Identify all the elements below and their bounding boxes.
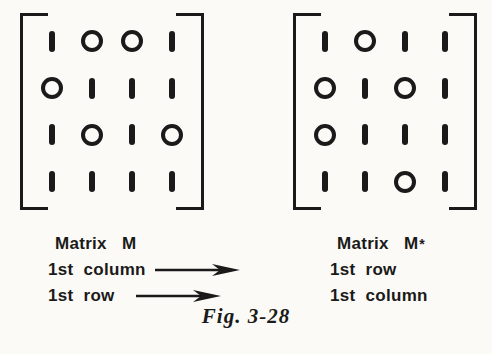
matrix-m-labels: Matrix M 1st column 1st row <box>48 231 240 309</box>
right-arrow-icon <box>135 289 221 303</box>
one-bar-glyph <box>49 31 55 52</box>
matrix-m-star-title-text: Matrix M <box>337 234 418 254</box>
first-row-label: 1st row <box>48 286 115 306</box>
matrix-m-title: Matrix M <box>48 231 240 257</box>
zero-circle-glyph <box>41 77 63 99</box>
matrix-entry-one <box>152 158 192 205</box>
matrix-entry-one <box>345 65 385 112</box>
one-bar-glyph <box>89 78 95 99</box>
matrix-entry-one <box>152 18 192 65</box>
matrix-entry-one <box>305 18 345 65</box>
matrix-m-star-title: Matrix M* <box>330 231 428 257</box>
matrix-entry-one <box>32 18 72 65</box>
matrix-entry-zero <box>385 65 425 112</box>
one-bar-glyph <box>442 171 448 192</box>
matrix-entry-one <box>385 18 425 65</box>
matrix-entry-one <box>32 112 72 159</box>
matrix-entry-one <box>425 112 465 159</box>
first-column-label: 1st column <box>330 286 428 306</box>
one-bar-glyph <box>322 31 328 52</box>
matrix-entry-one <box>72 158 112 205</box>
first-row-label: 1st row <box>330 260 397 280</box>
one-bar-glyph <box>442 78 448 99</box>
one-bar-glyph <box>49 171 55 192</box>
matrix-entry-zero <box>32 65 72 112</box>
matrix-entry-one <box>385 112 425 159</box>
one-bar-glyph <box>402 124 408 145</box>
zero-circle-glyph <box>394 171 416 193</box>
matrix-m-star <box>293 13 477 210</box>
matrix-entry-one <box>425 65 465 112</box>
matrix-m-title-text: Matrix M <box>55 234 136 254</box>
zero-circle-glyph <box>81 30 103 52</box>
matrix-m-label-first-column: 1st column <box>48 257 240 283</box>
one-bar-glyph <box>362 78 368 99</box>
zero-circle-glyph <box>394 77 416 99</box>
matrix-m-star-entries <box>305 18 465 205</box>
matrix-entry-one <box>112 112 152 159</box>
matrix-entry-one <box>72 65 112 112</box>
matrix-entry-zero <box>72 112 112 159</box>
one-bar-glyph <box>49 124 55 145</box>
one-bar-glyph <box>169 171 175 192</box>
zero-circle-glyph <box>354 30 376 52</box>
one-bar-glyph <box>129 78 135 99</box>
zero-circle-glyph <box>314 77 336 99</box>
matrix-m-entries <box>32 18 192 205</box>
one-bar-glyph <box>129 124 135 145</box>
one-bar-glyph <box>402 31 408 52</box>
zero-circle-glyph <box>121 30 143 52</box>
asterisk-superscript: * <box>419 236 425 252</box>
matrix-entry-zero <box>152 112 192 159</box>
matrix-entry-one <box>345 112 385 159</box>
one-bar-glyph <box>169 78 175 99</box>
matrix-entry-zero <box>345 18 385 65</box>
matrix-entry-one <box>425 18 465 65</box>
first-column-label: 1st column <box>48 260 146 280</box>
matrix-entry-zero <box>385 158 425 205</box>
zero-circle-glyph <box>314 124 336 146</box>
matrix-entry-one <box>305 158 345 205</box>
matrix-m <box>20 13 204 210</box>
zero-circle-glyph <box>161 124 183 146</box>
figure-3-28: Matrix M 1st column 1st row Matrix M* 1s… <box>0 0 492 354</box>
matrix-entry-zero <box>305 65 345 112</box>
one-bar-glyph <box>89 171 95 192</box>
zero-circle-glyph <box>81 124 103 146</box>
one-bar-glyph <box>169 31 175 52</box>
matrix-m-star-labels: Matrix M* 1st row 1st column <box>330 231 428 309</box>
matrix-entry-one <box>425 158 465 205</box>
matrix-entry-one <box>112 158 152 205</box>
one-bar-glyph <box>129 171 135 192</box>
one-bar-glyph <box>322 171 328 192</box>
figure-caption: Fig. 3-28 <box>146 304 346 329</box>
one-bar-glyph <box>442 124 448 145</box>
matrix-entry-zero <box>72 18 112 65</box>
matrix-entry-one <box>345 158 385 205</box>
matrix-m-star-label-first-row: 1st row <box>330 257 428 283</box>
one-bar-glyph <box>362 124 368 145</box>
right-arrow-icon <box>154 263 240 277</box>
matrix-entry-one <box>152 65 192 112</box>
matrix-entry-one <box>32 158 72 205</box>
matrix-entry-zero <box>305 112 345 159</box>
matrix-entry-one <box>112 65 152 112</box>
one-bar-glyph <box>362 171 368 192</box>
one-bar-glyph <box>442 31 448 52</box>
matrix-entry-zero <box>112 18 152 65</box>
